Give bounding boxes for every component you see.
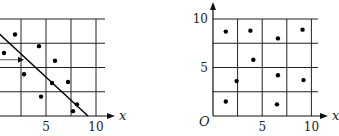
data-point (53, 59, 57, 63)
data-point (75, 102, 79, 106)
y-tick-label: 10 (193, 12, 208, 26)
left-scatter-chart: x 510 (0, 19, 127, 134)
y-tick-label: 5 (200, 61, 208, 75)
x-tick-label: 10 (88, 120, 103, 134)
data-point (301, 78, 305, 82)
data-point (22, 72, 26, 76)
figure: x 510 xO 510510 (0, 0, 339, 136)
y-axis-arrow-icon (210, 2, 216, 10)
regression-line (0, 27, 88, 116)
data-point (39, 94, 43, 98)
right-grid (213, 19, 318, 116)
x-axis-label: x (332, 108, 339, 123)
data-point (276, 73, 280, 77)
x-tick-label: 5 (258, 120, 266, 134)
x-tick-label: 5 (42, 120, 50, 134)
right-scatter-chart: xO 510510 (193, 2, 339, 134)
data-point (300, 27, 304, 31)
left-tick-labels: 510 (42, 120, 103, 134)
right-axes: xO (199, 2, 339, 129)
data-point (66, 80, 70, 84)
origin-label: O (199, 114, 210, 129)
left-axes: x (0, 108, 127, 123)
data-point (275, 102, 279, 106)
data-point (13, 32, 17, 36)
x-tick-label: 10 (304, 120, 319, 134)
data-point (71, 109, 75, 113)
data-point (248, 28, 252, 32)
data-point (251, 58, 255, 62)
left-fit-line (0, 27, 88, 116)
x-axis-arrow-icon (320, 113, 328, 119)
data-point (224, 29, 228, 33)
data-point (2, 51, 6, 55)
data-point (50, 81, 54, 85)
data-point (276, 36, 280, 40)
data-point (37, 44, 41, 48)
data-point (234, 79, 238, 83)
data-point (224, 99, 228, 103)
x-axis-label: x (119, 108, 127, 123)
x-axis-arrow-icon (107, 113, 115, 119)
